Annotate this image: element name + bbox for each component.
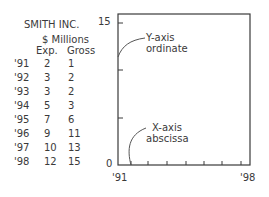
empty-chart-axes (0, 0, 269, 197)
y-ticks (118, 23, 123, 118)
y-max-label: 15 (98, 16, 111, 27)
y-min-label: 0 (106, 158, 112, 169)
x-axis-annotation-line2: abscissa (146, 133, 189, 144)
x-min-label: '91 (112, 172, 127, 183)
x-axis-leader-line (129, 128, 146, 165)
y-axis-annotation-line2: ordinate (146, 43, 188, 54)
x-max-label: '98 (240, 172, 255, 183)
y-axis-leader-line (118, 38, 145, 57)
x-ticks (131, 161, 241, 165)
x-axis-annotation-line1: X-axis (152, 122, 182, 133)
y-axis-annotation-line1: Y-axis (146, 32, 175, 43)
